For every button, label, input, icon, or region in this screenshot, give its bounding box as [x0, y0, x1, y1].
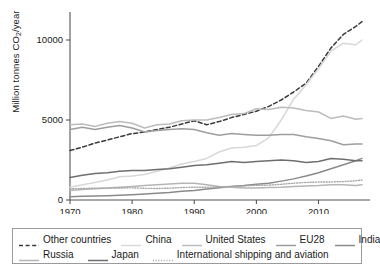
y-axis-label-post: /year — [10, 10, 21, 32]
legend-swatch-icon — [121, 236, 141, 245]
series-line — [70, 180, 362, 189]
legend-item-china[interactable]: China — [121, 235, 171, 245]
legend-swatch-icon — [182, 236, 202, 245]
x-tick-label: 1970 — [59, 206, 80, 214]
legend-swatch-icon — [335, 236, 355, 245]
y-axis-label: Million tonnes CO2/year — [10, 0, 21, 142]
legend-swatch-icon — [19, 251, 39, 260]
legend-item-international-shipping-and-aviation[interactable]: International shipping and aviation — [153, 250, 329, 260]
x-tick-label: 1980 — [122, 206, 143, 214]
legend-label: United States — [206, 235, 266, 245]
legend-row: Other countriesChinaUnited StatesEU28Ind… — [19, 233, 355, 247]
chart-figure: Million tonnes CO2/year 0500010000197019… — [0, 0, 380, 278]
plot-area: Million tonnes CO2/year 0500010000197019… — [0, 0, 380, 214]
legend-item-russia[interactable]: Russia — [19, 250, 74, 260]
legend-swatch-icon — [153, 251, 173, 260]
x-tick-label: 2000 — [246, 206, 267, 214]
y-axis-label-sub: 2 — [15, 32, 22, 36]
series-line — [70, 22, 362, 151]
legend-item-eu28[interactable]: EU28 — [276, 235, 325, 245]
y-tick-label: 0 — [58, 194, 63, 205]
x-tick-label: 2010 — [308, 206, 329, 214]
series-line — [70, 40, 362, 187]
y-tick-label: 10000 — [37, 34, 63, 45]
y-axis-label-pre: Million tonnes CO — [10, 36, 21, 113]
legend-swatch-icon — [19, 236, 39, 245]
legend-label: International shipping and aviation — [177, 250, 329, 260]
legend-label: EU28 — [300, 235, 325, 245]
legend-item-united-states[interactable]: United States — [182, 235, 266, 245]
legend-item-india[interactable]: India — [335, 235, 380, 245]
legend-label: Other countries — [43, 235, 111, 245]
legend-label: China — [145, 235, 171, 245]
legend-item-japan[interactable]: Japan — [88, 250, 139, 260]
y-tick-label: 5000 — [42, 114, 63, 125]
series-line — [70, 107, 362, 128]
series-line — [70, 126, 362, 145]
legend-swatch-icon — [88, 251, 108, 260]
legend-swatch-icon — [276, 236, 296, 245]
legend-label: Japan — [112, 250, 139, 260]
legend-item-other-countries[interactable]: Other countries — [19, 235, 111, 245]
x-tick-label: 1990 — [184, 206, 205, 214]
legend-row: RussiaJapanInternational shipping and av… — [19, 248, 355, 262]
chart-legend: Other countriesChinaUnited StatesEU28Ind… — [12, 228, 362, 264]
series-line — [70, 158, 362, 177]
legend-label: India — [359, 235, 380, 245]
legend-label: Russia — [43, 250, 74, 260]
chart-canvas: 050001000019701980199020002010 — [0, 0, 380, 214]
